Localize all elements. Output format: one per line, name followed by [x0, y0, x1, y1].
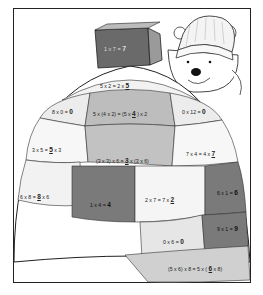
block-r6c1: (5 x 6) x 8 = 5 x ( 6 x 8) — [168, 265, 222, 272]
block-r4c4: 6 x 1 = 6 — [217, 189, 238, 196]
block-r2c3: 0 x 12 = 0 — [182, 108, 206, 115]
book-equation: 1 x 7 = 7 — [104, 45, 126, 52]
block-r5c1: 0 x 6 = 0 — [163, 238, 184, 245]
block-r4c2: 1 x 4 = 4 — [90, 201, 111, 208]
block-r3c3: 7 x 4 = 4 x 7 — [186, 150, 215, 157]
block-r2c1: 8 x 0 = 0 — [52, 108, 73, 115]
block-r1c1: 5 x 2 = 2 x 5 — [100, 82, 129, 89]
block-r2c2: 5 x (4 x 2) = (5 x 4 ) x 2 — [93, 110, 147, 117]
block-r3c1: 3 x 5 = 5 x 3 — [32, 146, 61, 153]
block-r3c2: (3 x 3) x 6 = 3 x (3 x 6) — [96, 157, 149, 164]
block-r4c1: 6 x 8 = 8 x 6 — [20, 193, 49, 200]
block-r5c2: 9 x 1 = 9 — [217, 225, 238, 232]
block-r4c3: 2 x 7 = 7 x 2 — [145, 196, 174, 203]
